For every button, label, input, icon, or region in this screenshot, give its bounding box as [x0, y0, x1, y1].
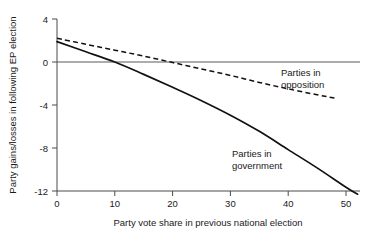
x-tick-label-20: 20: [167, 198, 178, 209]
x-tick-label-10: 10: [110, 198, 121, 209]
x-tick-label-0: 0: [54, 198, 59, 209]
annotation-government-line2: government: [232, 160, 283, 171]
chart-figure: 4 0 -4 -8 -12 0 10 20 30 40 50 Parties i…: [0, 0, 376, 249]
x-tick-label-40: 40: [283, 198, 294, 209]
x-tick-label-30: 30: [225, 198, 236, 209]
y-tick-label-neg8: -8: [40, 143, 48, 154]
y-axis-title: Party gains/losses in following EP elect…: [7, 16, 18, 193]
annotation-government-line1: Parties in: [232, 148, 272, 159]
series-line-parties-in-government: [57, 42, 358, 195]
x-tick-label-50: 50: [341, 198, 352, 209]
annotation-opposition-line1: Parties in: [281, 67, 321, 78]
chart-plot-area: 4 0 -4 -8 -12 0 10 20 30 40 50 Parties i…: [0, 0, 376, 249]
y-tick-label-0: 0: [43, 57, 48, 68]
annotation-opposition-line2: opposition: [281, 79, 324, 90]
y-tick-label-neg12: -12: [34, 186, 48, 197]
y-tick-label-4: 4: [43, 14, 48, 25]
y-tick-label-neg4: -4: [40, 100, 48, 111]
x-axis-title: Party vote share in previous national el…: [113, 217, 302, 228]
